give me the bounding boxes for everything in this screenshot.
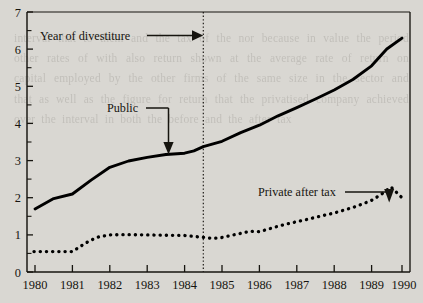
x-tick-label: 1989: [359, 278, 384, 292]
y-tick-label: 1: [15, 228, 21, 242]
x-tick-label: 1990: [392, 278, 417, 292]
y-tick-label: 5: [15, 80, 21, 94]
x-tick-label: 1981: [60, 278, 85, 292]
x-tick-label: 1988: [322, 278, 347, 292]
annotation-public: Public: [107, 101, 174, 155]
x-tick-label: 1982: [97, 278, 122, 292]
arrowhead-down-icon: [384, 189, 394, 203]
x-tick-label: 1987: [284, 278, 309, 292]
x-tick-label: 1986: [247, 278, 272, 292]
y-tick-label: 7: [15, 6, 21, 20]
line-chart: 0 1 2 3 4 5 6 7 1980 1981 1982: [0, 0, 423, 303]
annotation-label-public: Public: [107, 101, 139, 115]
x-tick-label: 1980: [23, 278, 48, 292]
x-tick-label: 1984: [172, 278, 197, 292]
y-axis-tick-labels: 0 1 2 3 4 5 6 7: [15, 6, 21, 280]
y-tick-label: 2: [15, 191, 21, 205]
x-axis-tick-labels: 1980 1981 1982 1983 1984 1985 1986 1987 …: [23, 278, 417, 292]
x-tick-label: 1983: [135, 278, 160, 292]
annotation-private-after-tax: Private after tax: [258, 185, 394, 203]
y-tick-label: 4: [15, 117, 21, 131]
y-tick-label: 3: [15, 154, 21, 168]
series-line-public: [35, 38, 402, 209]
arrowhead-right-icon: [192, 30, 203, 41]
x-axis-ticks: [35, 265, 402, 272]
annotation-divestiture: Year of divestiture: [40, 29, 203, 43]
figure-container: interval that to them and the tax of the…: [0, 0, 423, 303]
annotation-label-private-after-tax: Private after tax: [258, 185, 336, 199]
y-tick-label: 0: [15, 266, 21, 280]
y-tick-label: 6: [15, 43, 21, 57]
x-tick-label: 1985: [210, 278, 235, 292]
series-line-private-after-tax: [34, 187, 402, 252]
annotation-label-divestiture: Year of divestiture: [40, 29, 130, 43]
